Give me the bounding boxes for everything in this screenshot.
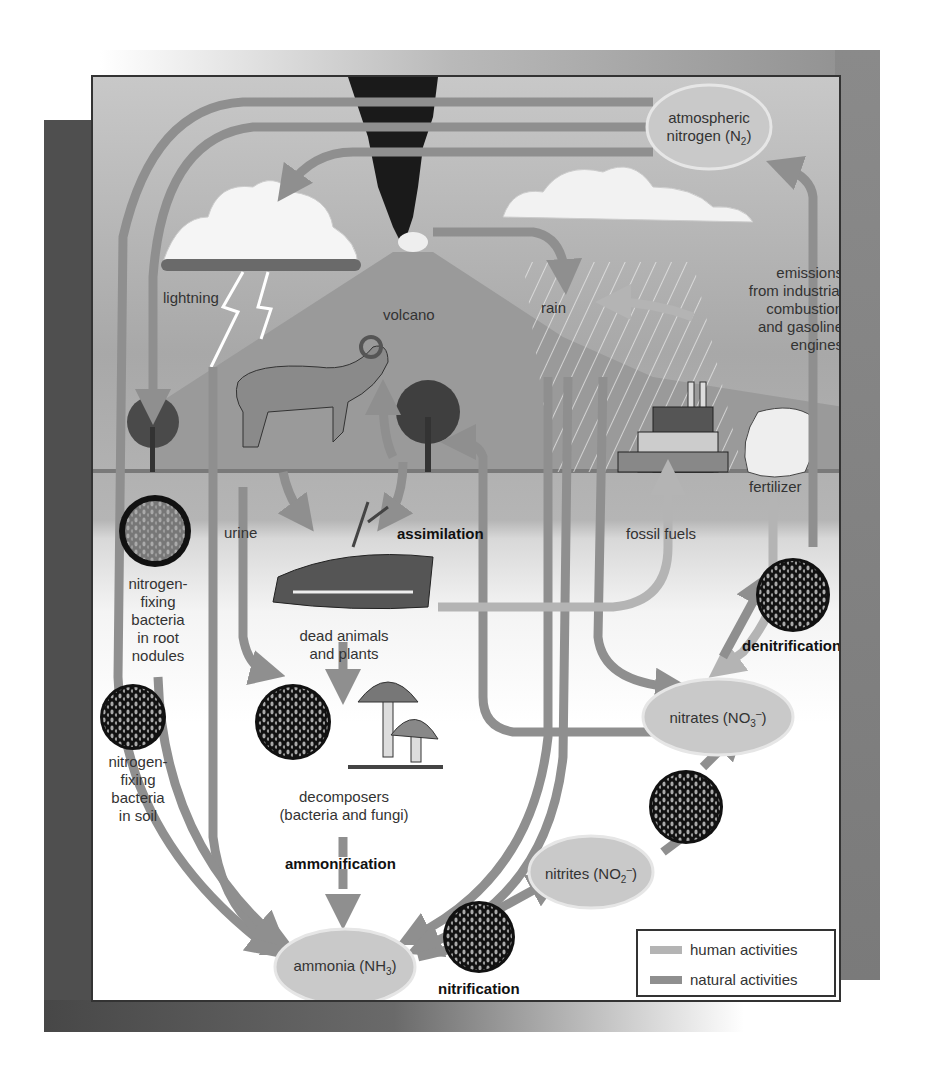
dead-animals-plants-label: dead animals and plants xyxy=(279,627,409,663)
fertilizer-bag-icon xyxy=(745,408,815,477)
rain-label: rain xyxy=(541,299,566,317)
fertilizer-label: fertilizer xyxy=(749,478,802,496)
volcano-label: volcano xyxy=(383,306,435,324)
root-nodule-bacteria-label: nitrogen- fixing bacteria in root nodule… xyxy=(113,575,203,665)
nitrogen-cycle-diagram: atmospheric nitrogen (N2) nitrates (NO3–… xyxy=(91,75,841,1002)
lightning-bolt-icon xyxy=(258,272,271,339)
nitrification-label: nitrification xyxy=(438,980,520,998)
mushroom-fungi-icon xyxy=(348,682,443,767)
decorative-backdrop-right xyxy=(835,50,880,980)
denitrifying-bacteria-icon xyxy=(756,558,830,632)
nitrifying-bacteria-icon xyxy=(443,901,515,973)
legend-item-natural: natural activities xyxy=(650,971,798,988)
human-activities-swatch xyxy=(650,946,682,954)
rain-cloud-icon xyxy=(503,167,753,222)
nitrites-label: nitrites (NO2–) xyxy=(529,861,653,889)
nitrifying-bacteria-icon xyxy=(649,770,723,844)
decorative-backdrop-bottom xyxy=(44,1000,744,1032)
lightning-label: lightning xyxy=(163,289,219,307)
urine-label: urine xyxy=(224,524,257,542)
nitrates-label: nitrates (NO3–) xyxy=(653,705,783,733)
atmospheric-nitrogen-label: atmospheric nitrogen (N2) xyxy=(649,109,769,151)
ammonia-label: ammonia (NH3) xyxy=(279,957,411,981)
ammonification-label: ammonification xyxy=(285,855,396,873)
decomposer-bacteria-icon xyxy=(255,684,331,760)
soil-bacteria-icon xyxy=(100,684,166,750)
denitrification-label: denitrification xyxy=(742,637,841,655)
root-nodule-bacteria-icon xyxy=(119,495,191,567)
dead-animals-plants-icon xyxy=(273,502,433,609)
storm-cloud-icon xyxy=(161,181,361,271)
assimilation-label: assimilation xyxy=(397,525,484,543)
soil-bacteria-label: nitrogen- fixing bacteria in soil xyxy=(93,753,183,825)
natural-activities-swatch xyxy=(650,976,682,984)
decomposers-label: decomposers (bacteria and fungi) xyxy=(269,788,419,824)
legend-item-human: human activities xyxy=(650,941,798,958)
fossil-fuels-label: fossil fuels xyxy=(626,525,696,543)
emissions-label: emissions from industrial combustion and… xyxy=(733,264,841,354)
legend: human activities natural activities xyxy=(636,929,836,997)
